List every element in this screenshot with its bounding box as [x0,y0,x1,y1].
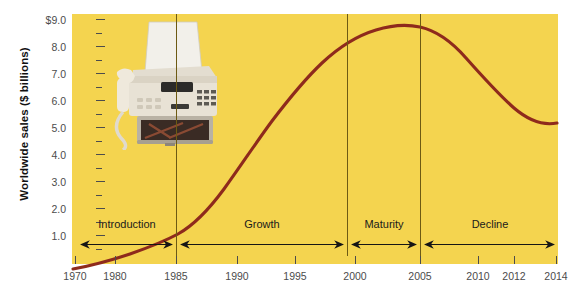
stage-label-growth: Growth [244,218,279,230]
product-life-cycle-chart: Worldwide sales ($ billions) $9.0 8.0 7.… [0,0,582,292]
stage-annotation-layer [0,0,582,292]
stage-label-introduction: Introduction [98,218,155,230]
stage-label-maturity: Maturity [364,218,403,230]
stage-label-decline: Decline [472,218,509,230]
